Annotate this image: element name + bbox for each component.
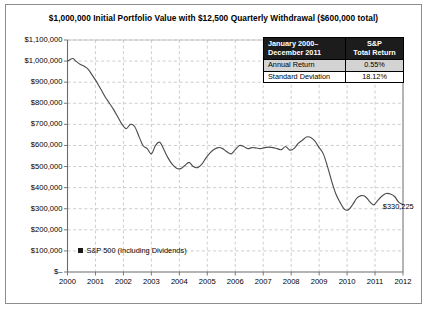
y-axis-tick-label: $–	[54, 267, 62, 276]
stats-table-row: Annual Return 0.55%	[264, 60, 404, 72]
stats-row-value: 0.55%	[346, 60, 404, 72]
stats-table-header-row: January 2000– December 2011 S&P Total Re…	[264, 38, 404, 60]
stats-row-value: 18.12%	[346, 71, 404, 83]
stats-row-label: Standard Deviation	[264, 71, 346, 83]
y-axis-tick-label: $100,000	[31, 246, 63, 255]
legend-swatch-sp500	[78, 248, 83, 253]
y-axis-tick-label: $1,000,000	[24, 56, 62, 65]
chart-legend: S&P 500 (Including Dividends)	[78, 246, 187, 255]
y-axis-tick-label: $700,000	[31, 119, 63, 128]
legend-label-sp500: S&P 500 (Including Dividends)	[87, 246, 187, 255]
y-axis-tick-label: $400,000	[31, 183, 63, 192]
x-axis-tick-label: 2012	[387, 277, 419, 286]
stats-header-metric-line2: Total Return	[353, 48, 395, 57]
y-axis-tick-label: $800,000	[31, 98, 63, 107]
y-axis-tick-label: $300,000	[31, 204, 63, 213]
chart-figure: $1,000,000 Initial Portfolio Value with …	[0, 0, 427, 309]
stats-header-period: January 2000– December 2011	[264, 38, 346, 60]
end-value-annotation: $330,225	[383, 202, 414, 211]
stats-header-metric: S&P Total Return	[346, 38, 404, 60]
stats-table-row: Standard Deviation 18.12%	[264, 71, 404, 83]
stats-row-label: Annual Return	[264, 60, 346, 72]
y-axis-tick-label: $600,000	[31, 140, 63, 149]
statistics-table: January 2000– December 2011 S&P Total Re…	[263, 37, 404, 83]
y-axis-tick-label: $500,000	[31, 162, 63, 171]
y-axis-tick-label: $200,000	[31, 225, 63, 234]
stats-header-period-line2: December 2011	[268, 48, 321, 57]
y-axis-tick-label: $1,100,000	[24, 35, 62, 44]
y-axis-tick-label: $900,000	[31, 77, 63, 86]
